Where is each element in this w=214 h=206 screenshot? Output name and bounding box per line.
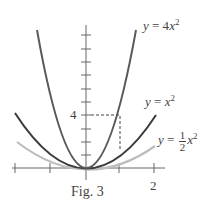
- label-y-x2: y = x2: [145, 93, 175, 110]
- figure-caption: Fig. 3: [71, 184, 104, 200]
- figure-plot: [0, 0, 214, 206]
- y-tick-label-4: 4: [70, 107, 77, 123]
- label-y-4x2: y = 4x2: [143, 17, 179, 34]
- x-tick-label-2: 2: [150, 178, 157, 194]
- label-y-half-x2: y = 12x2: [158, 130, 197, 153]
